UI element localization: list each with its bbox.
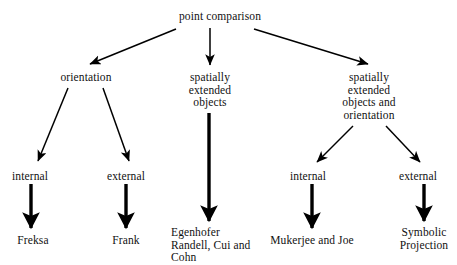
edge-seo-orientation-to-external bbox=[386, 126, 420, 162]
edge-seo-orientation-to-internal bbox=[317, 126, 353, 162]
node-external-left: external bbox=[107, 170, 145, 183]
node-point-comparison: point comparison bbox=[179, 10, 261, 23]
node-internal-right: internal bbox=[290, 170, 326, 183]
edge-orientation-to-external bbox=[103, 88, 129, 161]
node-orientation: orientation bbox=[60, 71, 111, 84]
node-symbolic-projection: Symbolic Projection bbox=[400, 226, 448, 251]
node-internal-left: internal bbox=[12, 170, 48, 183]
edge-root-to-orientation bbox=[90, 29, 176, 64]
node-egenhofer-randell-cui-and-cohn: Egenhofer Randell, Cui and Cohn bbox=[171, 226, 250, 264]
node-external-right: external bbox=[399, 170, 437, 183]
node-mukerjee-and-joe: Mukerjee and Joe bbox=[270, 234, 354, 247]
node-frank: Frank bbox=[112, 234, 139, 247]
node-spatially-extended-objects-and-orientation: spatially extended objects and orientati… bbox=[342, 71, 395, 121]
node-spatially-extended-objects: spatially extended objects bbox=[189, 71, 231, 109]
diagram-canvas: point comparison orientation spatially e… bbox=[0, 0, 457, 265]
node-freksa: Freksa bbox=[17, 234, 48, 247]
edge-orientation-to-internal bbox=[38, 88, 68, 161]
edge-root-to-spatially-extended-objects-and-orientation bbox=[254, 29, 368, 64]
